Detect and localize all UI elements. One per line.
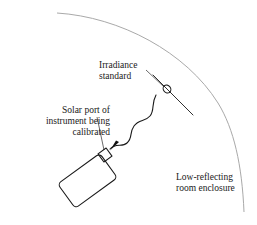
label-room-enclosure-line1: Low-reflecting [176,172,233,182]
label-irradiance-standard-line2: standard [99,71,131,81]
label-solar-port-line3: calibrated [73,127,111,137]
label-solar-port-line2: instrument being [46,116,110,126]
label-solar-port-line1: Solar port of [62,105,111,115]
label-room-enclosure: Low-reflecting room enclosure [176,172,235,193]
diagram-canvas: Irradiance standard Solar port of instru… [0,0,257,225]
label-room-enclosure-line2: room enclosure [176,183,235,193]
irradiance-calibration-diagram: Irradiance standard Solar port of instru… [0,0,257,225]
label-irradiance-standard-line1: Irradiance [99,60,138,70]
